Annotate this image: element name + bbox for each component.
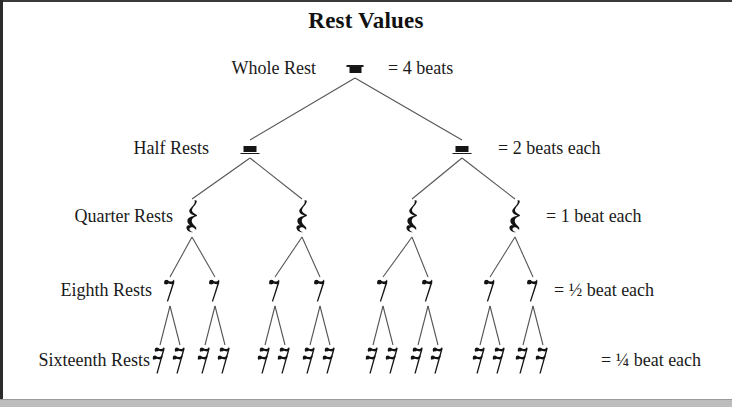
connector-eighth-to-sixteenth [383, 306, 393, 345]
connector-eighth-to-sixteenth [428, 306, 438, 345]
connector-half-to-quarter [412, 158, 462, 199]
sixteenth-rest-glyph [303, 347, 318, 377]
sixteenth-rest-glyph [411, 347, 426, 377]
connector-half-to-quarter [192, 158, 250, 199]
connector-quarter-to-eighth [515, 237, 533, 277]
connector-eighth-to-sixteenth [320, 306, 330, 345]
connector-half-to-quarter [462, 158, 515, 199]
connector-quarter-to-eighth [302, 237, 320, 277]
eighth-rest-glyph [376, 279, 391, 305]
connector-eighth-to-sixteenth [480, 306, 490, 345]
sixteenth-rest-glyph [198, 347, 213, 377]
connector-eighth-to-sixteenth [170, 306, 180, 345]
sixteenth-rest-glyph [153, 347, 168, 377]
connector-eighth-to-sixteenth [490, 306, 500, 345]
connector-quarter-to-eighth [275, 237, 302, 277]
connector-eighth-to-sixteenth [373, 306, 383, 345]
eighth-rest-glyph [483, 279, 498, 305]
value-label-quarter-rests: = 1 beat each [546, 206, 642, 227]
sixteenth-rest-glyph [431, 347, 446, 377]
sixteenth-rest-glyph [473, 347, 488, 377]
connector-eighth-to-sixteenth [160, 306, 170, 345]
sixteenth-rest-glyph [386, 347, 401, 377]
connector-eighth-to-sixteenth [523, 306, 533, 345]
sixteenth-rest-glyph [258, 347, 273, 377]
row-label-whole-rest: Whole Rest [232, 58, 316, 79]
tree-connector-lines [0, 0, 732, 407]
half-rest-glyph [241, 145, 260, 155]
value-label-whole-rest: = 4 beats [388, 58, 453, 79]
sixteenth-rest-glyph [278, 347, 293, 377]
value-label-half-rests: = 2 beats each [498, 138, 601, 159]
page-border-top [0, 0, 732, 2]
eighth-rest-glyph [268, 279, 283, 305]
connector-eighth-to-sixteenth [310, 306, 320, 345]
quarter-rest-glyph [293, 199, 311, 237]
connector-whole-to-half [250, 78, 355, 140]
eighth-rest-glyph [313, 279, 328, 305]
half-rest-glyph [453, 145, 472, 155]
eighth-rest-glyph [208, 279, 223, 305]
page-title: Rest Values [0, 8, 732, 34]
whole-rest-glyph [347, 65, 364, 75]
quarter-rest-glyph [506, 199, 524, 237]
rest-values-diagram: Rest Values Whole Rest Half Rests Quarte… [0, 0, 732, 407]
connector-quarter-to-eighth [490, 237, 515, 277]
connector-quarter-to-eighth [383, 237, 412, 277]
connector-half-to-quarter [250, 158, 302, 199]
row-label-quarter-rests: Quarter Rests [75, 206, 173, 227]
connector-eighth-to-sixteenth [205, 306, 215, 345]
sixteenth-rest-glyph [323, 347, 338, 377]
connector-eighth-to-sixteenth [418, 306, 428, 345]
row-label-eighth-rests: Eighth Rests [60, 280, 152, 301]
quarter-rest-glyph [183, 199, 201, 237]
connector-quarter-to-eighth [170, 237, 192, 277]
eighth-rest-glyph [421, 279, 436, 305]
row-label-sixteenth-rests: Sixteenth Rests [39, 350, 151, 371]
connector-quarter-to-eighth [192, 237, 215, 277]
value-label-sixteenth-rests: = ¼ beat each [601, 350, 701, 371]
connector-eighth-to-sixteenth [275, 306, 285, 345]
connector-whole-to-half [355, 78, 462, 140]
connector-eighth-to-sixteenth [215, 306, 225, 345]
value-label-eighth-rests: = ½ beat each [554, 280, 654, 301]
page-border-bottom [0, 400, 732, 407]
eighth-rest-glyph [163, 279, 178, 305]
row-label-half-rests: Half Rests [134, 138, 210, 159]
eighth-rest-glyph [526, 279, 541, 305]
connector-eighth-to-sixteenth [533, 306, 543, 345]
sixteenth-rest-glyph [536, 347, 551, 377]
connector-eighth-to-sixteenth [265, 306, 275, 345]
sixteenth-rest-glyph [493, 347, 508, 377]
quarter-rest-glyph [403, 199, 421, 237]
connector-quarter-to-eighth [412, 237, 428, 277]
sixteenth-rest-glyph [218, 347, 233, 377]
sixteenth-rest-glyph [516, 347, 531, 377]
sixteenth-rest-glyph [366, 347, 381, 377]
sixteenth-rest-glyph [173, 347, 188, 377]
page-border-left [0, 0, 3, 407]
